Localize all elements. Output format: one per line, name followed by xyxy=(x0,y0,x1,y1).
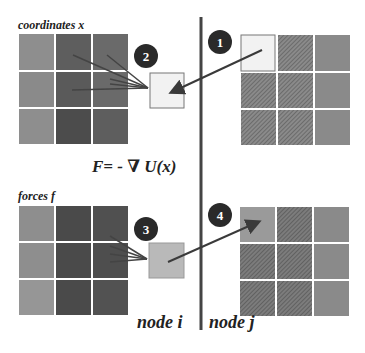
step-badge-2: 2 xyxy=(134,44,158,68)
received-coordinate-cell xyxy=(150,73,184,108)
computed-force-cell xyxy=(149,243,184,278)
node-i-label: node i xyxy=(137,312,183,332)
forces-label: forces f xyxy=(18,189,56,203)
node-j-label: node j xyxy=(209,312,256,332)
svg-text:2: 2 xyxy=(143,49,150,64)
svg-text:4: 4 xyxy=(217,208,224,223)
domain-decomposition-diagram: F= - ∇ U(x) 1 2 xyxy=(0,0,365,353)
step-badge-1: 1 xyxy=(208,30,232,54)
svg-text:3: 3 xyxy=(143,222,150,237)
forces-grid-node-i xyxy=(19,206,128,315)
step-badge-4: 4 xyxy=(208,203,232,227)
coordinates-label: coordinates x xyxy=(18,18,84,32)
step-badge-3: 3 xyxy=(134,217,158,241)
svg-text:1: 1 xyxy=(217,35,224,50)
force-equation: F= - ∇ U(x) xyxy=(91,157,176,176)
